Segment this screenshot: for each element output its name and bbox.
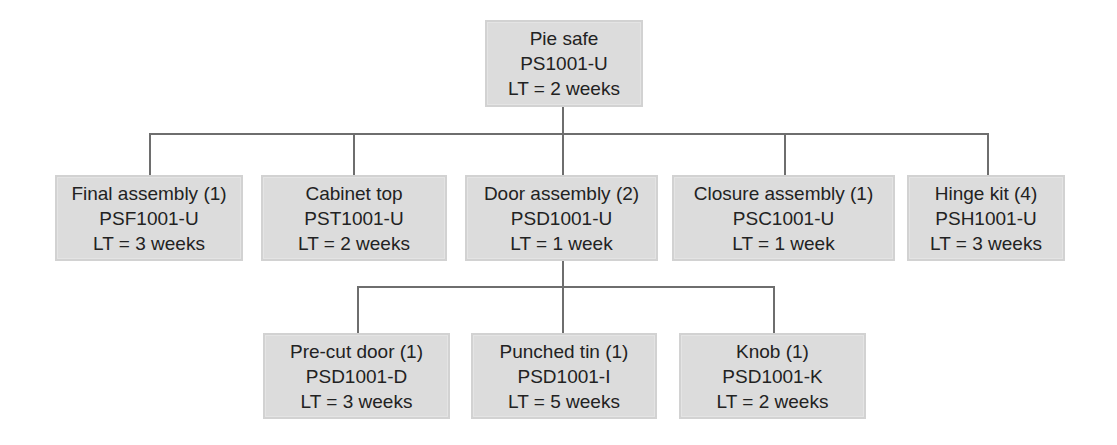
node-name: Pre-cut door (1)	[290, 339, 423, 364]
node-name: Punched tin (1)	[500, 339, 629, 364]
connector-door-assembly	[562, 133, 564, 175]
node-part-number: PSD1001-D	[306, 364, 407, 389]
node-cabinet-top: Cabinet top PST1001-U LT = 2 weeks	[261, 175, 447, 261]
connector-cabinet-top	[353, 133, 355, 175]
connector-level2-bus	[357, 286, 775, 288]
node-pre-cut-door: Pre-cut door (1) PSD1001-D LT = 3 weeks	[263, 333, 450, 419]
connector-level1-bus	[149, 133, 989, 135]
node-lead-time: LT = 3 weeks	[301, 389, 413, 414]
connector-punched-tin	[562, 286, 564, 333]
node-lead-time: LT = 1 week	[510, 231, 612, 256]
node-name: Cabinet top	[305, 181, 402, 206]
node-lead-time: LT = 5 weeks	[508, 389, 620, 414]
node-part-number: PSH1001-U	[935, 206, 1036, 231]
node-part-number: PS1001-U	[520, 51, 608, 76]
node-part-number: PSC1001-U	[733, 206, 834, 231]
node-lead-time: LT = 3 weeks	[93, 231, 205, 256]
node-name: Hinge kit (4)	[935, 181, 1037, 206]
node-punched-tin: Punched tin (1) PSD1001-I LT = 5 weeks	[471, 333, 657, 419]
node-part-number: PSD1001-I	[518, 364, 611, 389]
node-lead-time: LT = 1 week	[732, 231, 834, 256]
connector-root-down	[562, 107, 564, 135]
node-name: Final assembly (1)	[71, 181, 226, 206]
connector-final-assembly	[149, 133, 151, 175]
node-name: Pie safe	[530, 26, 599, 51]
node-closure-assembly: Closure assembly (1) PSC1001-U LT = 1 we…	[672, 175, 895, 261]
node-lead-time: LT = 2 weeks	[508, 76, 620, 101]
connector-pre-cut-door	[357, 286, 359, 333]
node-part-number: PSD1001-K	[722, 364, 822, 389]
node-lead-time: LT = 2 weeks	[298, 231, 410, 256]
node-part-number: PSF1001-U	[99, 206, 198, 231]
node-door-assembly: Door assembly (2) PSD1001-U LT = 1 week	[465, 175, 658, 261]
connector-hinge-kit	[987, 133, 989, 175]
node-name: Closure assembly (1)	[694, 181, 874, 206]
node-lead-time: LT = 3 weeks	[930, 231, 1042, 256]
node-final-assembly: Final assembly (1) PSF1001-U LT = 3 week…	[55, 175, 243, 261]
node-name: Knob (1)	[736, 339, 809, 364]
connector-door-down	[562, 260, 564, 288]
connector-knob	[773, 286, 775, 333]
node-hinge-kit: Hinge kit (4) PSH1001-U LT = 3 weeks	[907, 175, 1065, 261]
node-part-number: PSD1001-U	[511, 206, 612, 231]
product-structure-diagram: Pie safe PS1001-U LT = 2 weeks Final ass…	[0, 0, 1117, 445]
connector-closure-assembly	[784, 133, 786, 175]
node-knob: Knob (1) PSD1001-K LT = 2 weeks	[679, 333, 866, 419]
node-name: Door assembly (2)	[484, 181, 639, 206]
node-pie-safe: Pie safe PS1001-U LT = 2 weeks	[485, 20, 643, 107]
node-lead-time: LT = 2 weeks	[717, 389, 829, 414]
node-part-number: PST1001-U	[304, 206, 403, 231]
